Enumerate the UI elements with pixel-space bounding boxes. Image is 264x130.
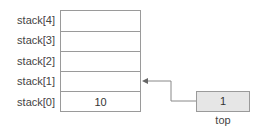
arrowhead-icon <box>142 78 148 84</box>
top-pointer-label: top <box>196 114 250 126</box>
top-pointer-box: 1 <box>196 91 250 112</box>
